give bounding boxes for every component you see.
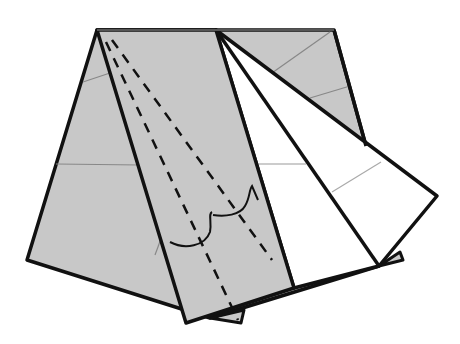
origami-diagram: Origami folding step — [0, 0, 460, 344]
diagram-canvas — [0, 0, 460, 344]
